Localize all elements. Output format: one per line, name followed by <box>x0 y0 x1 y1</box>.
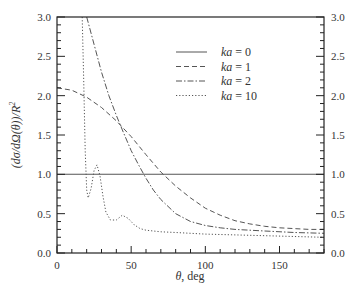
legend-label-1: ka = 1 <box>221 60 251 74</box>
series-line-1 <box>57 88 324 230</box>
series-line-2 <box>87 17 324 233</box>
y-axis-label: (dσ/dΩ(θ))/R2 <box>8 102 23 168</box>
x-tick-label: 0 <box>54 259 60 271</box>
y-tick-label-left: 3.0 <box>37 11 51 23</box>
series-line-3 <box>82 17 324 237</box>
y-tick-label-right: 3.0 <box>331 11 345 23</box>
y-tick-label-left: 1.0 <box>37 168 51 180</box>
y-tick-label-left: 2.5 <box>37 50 51 62</box>
y-tick-label-left: 1.5 <box>37 129 51 141</box>
x-tick-label: 50 <box>126 259 138 271</box>
chart: 0.00.00.50.51.01.01.51.52.02.02.52.53.03… <box>0 0 359 298</box>
plot-lines <box>57 17 324 237</box>
y-tick-label-right: 2.0 <box>331 90 345 102</box>
legend-label-0: ka = 0 <box>221 45 251 59</box>
legend-label-3: ka = 10 <box>221 89 257 103</box>
y-axis-label-sup: 2 <box>8 102 17 106</box>
legend-label-2: ka = 2 <box>221 74 251 88</box>
y-tick-label-right: 0.0 <box>331 247 345 259</box>
legend: ka = 0ka = 1ka = 2ka = 10 <box>176 45 257 103</box>
y-tick-label-right: 1.5 <box>331 129 345 141</box>
y-tick-label-right: 1.0 <box>331 168 345 180</box>
y-tick-label-left: 2.0 <box>37 90 51 102</box>
y-tick-label-left: 0.5 <box>37 208 51 220</box>
x-axis-label: θ, deg <box>175 269 204 283</box>
y-tick-label-right: 2.5 <box>331 50 345 62</box>
y-tick-label-left: 0.0 <box>37 247 51 259</box>
x-tick-label: 150 <box>271 259 288 271</box>
y-tick-label-right: 0.5 <box>331 208 345 220</box>
y-axis-label-main: (dσ/dΩ(θ))/R <box>9 105 23 168</box>
